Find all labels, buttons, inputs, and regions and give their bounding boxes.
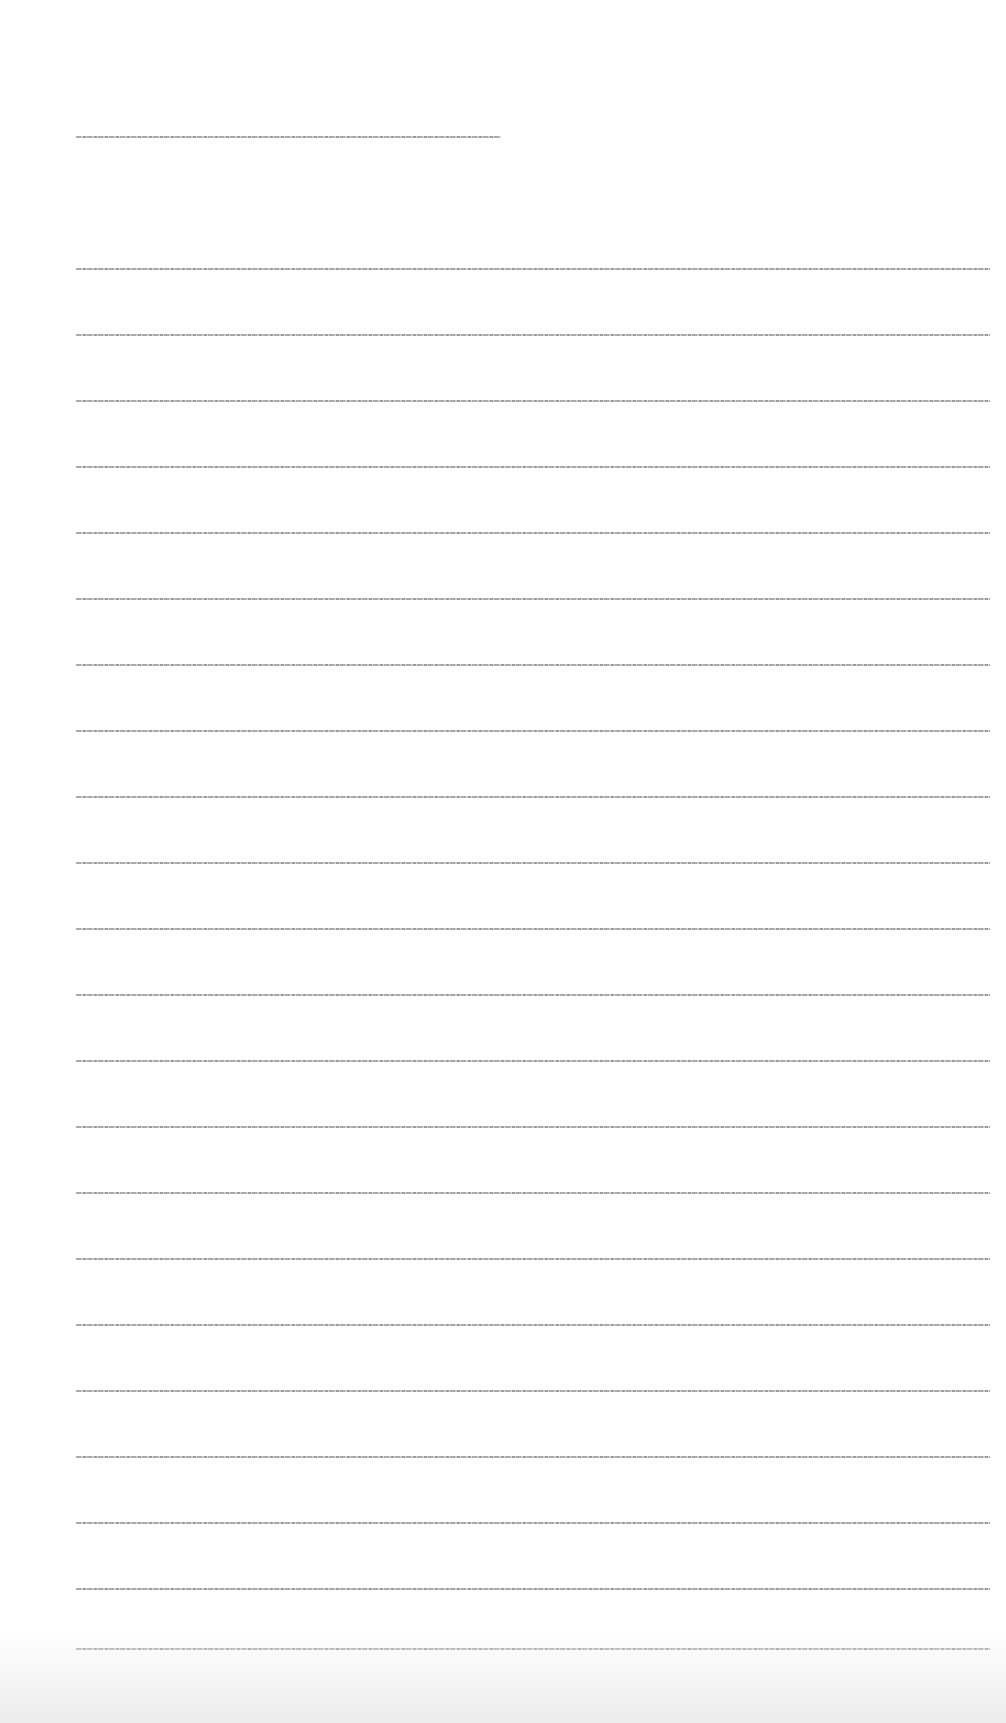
text-line	[76, 1060, 990, 1062]
document-title	[76, 136, 501, 138]
text-line	[76, 664, 990, 666]
text-line	[76, 268, 990, 270]
text-line	[76, 928, 990, 930]
bottom-shadow	[0, 1633, 1006, 1723]
text-line	[76, 1456, 990, 1458]
text-line	[76, 1192, 990, 1194]
text-line	[76, 1258, 990, 1260]
text-line	[76, 466, 990, 468]
text-line	[76, 1390, 990, 1392]
text-line	[76, 730, 990, 732]
text-line	[76, 994, 990, 996]
text-line	[76, 1522, 990, 1524]
text-line	[76, 862, 990, 864]
text-line	[76, 532, 990, 534]
text-line	[76, 1588, 990, 1590]
text-line	[76, 598, 990, 600]
text-line	[76, 334, 990, 336]
text-line	[76, 1324, 990, 1326]
text-line	[76, 400, 990, 402]
text-line	[76, 796, 990, 798]
text-line	[76, 1126, 990, 1128]
